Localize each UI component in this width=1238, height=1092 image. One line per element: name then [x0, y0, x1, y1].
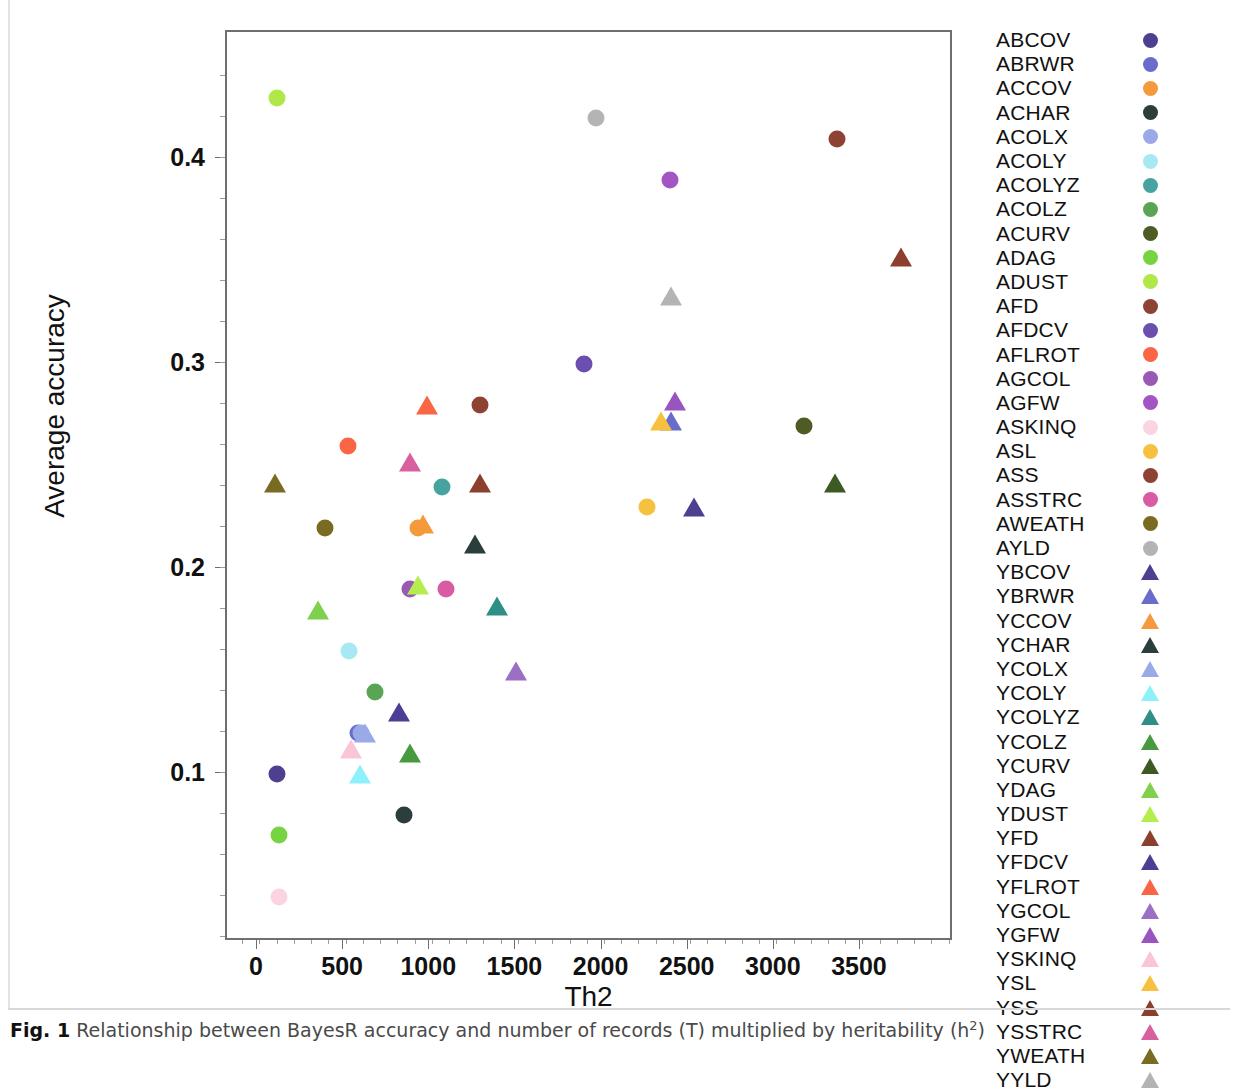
- legend-circle-marker-icon: [1138, 222, 1162, 246]
- legend-marker-shape: [1141, 564, 1159, 580]
- legend-item[interactable]: YBRWR: [996, 584, 1226, 608]
- legend-circle-marker-icon: [1138, 52, 1162, 76]
- legend-marker-shape: [1143, 323, 1158, 338]
- x-axis-minor-tick: [880, 940, 881, 944]
- legend-triangle-marker-icon: [1138, 850, 1162, 874]
- legend-circle-marker-icon: [1138, 173, 1162, 197]
- legend-item[interactable]: ABRWR: [996, 52, 1226, 76]
- legend-item[interactable]: ACCOV: [996, 76, 1226, 100]
- legend-item-label: AFLROT: [996, 343, 1132, 367]
- legend-item[interactable]: AGFW: [996, 391, 1226, 415]
- data-point: [264, 473, 286, 492]
- legend-item[interactable]: AFLROT: [996, 342, 1226, 366]
- y-axis-minor-tick: [220, 198, 225, 199]
- legend-item[interactable]: AYLD: [996, 536, 1226, 560]
- legend-item[interactable]: ACOLX: [996, 125, 1226, 149]
- figure-left-rule: [8, 0, 10, 1008]
- legend-item[interactable]: YBCOV: [996, 560, 1226, 584]
- legend-circle-marker-icon: [1138, 149, 1162, 173]
- y-axis-title: Average accuracy: [39, 146, 71, 666]
- legend-item-label: YDAG: [996, 778, 1132, 802]
- data-point: [890, 248, 912, 267]
- legend-item[interactable]: YCHAR: [996, 633, 1226, 657]
- data-point: [664, 391, 686, 410]
- y-axis-minor-tick: [220, 731, 225, 732]
- legend-item[interactable]: YCOLX: [996, 657, 1226, 681]
- x-axis-minor-tick: [294, 940, 295, 944]
- legend-item[interactable]: YCCOV: [996, 609, 1226, 633]
- legend-item[interactable]: YFD: [996, 826, 1226, 850]
- legend-item[interactable]: YDAG: [996, 778, 1226, 802]
- legend-item[interactable]: ACURV: [996, 222, 1226, 246]
- data-point: [472, 397, 489, 414]
- legend-circle-marker-icon: [1138, 125, 1162, 149]
- legend-item[interactable]: YCOLY: [996, 681, 1226, 705]
- y-axis-minor-tick: [220, 321, 225, 322]
- legend-item[interactable]: ASSTRC: [996, 488, 1226, 512]
- legend-item-label: AYLD: [996, 536, 1132, 560]
- legend-marker-shape: [1143, 468, 1158, 483]
- data-point: [388, 703, 410, 722]
- x-axis-minor-tick: [570, 940, 571, 944]
- y-axis-tick-label: 0.2: [125, 552, 205, 581]
- legend-item[interactable]: ADAG: [996, 246, 1226, 270]
- legend-triangle-marker-icon: [1138, 754, 1162, 778]
- legend-item[interactable]: YWEATH: [996, 1044, 1226, 1068]
- data-point: [354, 723, 376, 742]
- data-point: [486, 596, 508, 615]
- data-point: [683, 498, 705, 517]
- legend-marker-shape: [1143, 81, 1158, 96]
- legend-item[interactable]: ACHAR: [996, 101, 1226, 125]
- legend-item[interactable]: YCURV: [996, 754, 1226, 778]
- data-point: [268, 89, 285, 106]
- legend-item[interactable]: AFD: [996, 294, 1226, 318]
- legend-item[interactable]: ACOLYZ: [996, 173, 1226, 197]
- figure-caption: Fig. 1 Relationship between BayesR accur…: [10, 1018, 1220, 1041]
- legend-item[interactable]: YFLROT: [996, 875, 1226, 899]
- legend-item[interactable]: ASS: [996, 463, 1226, 487]
- data-point: [340, 740, 362, 759]
- legend-item[interactable]: YCOLZ: [996, 729, 1226, 753]
- legend-triangle-marker-icon: [1138, 705, 1162, 729]
- legend-marker-shape: [1141, 951, 1159, 967]
- legend-item[interactable]: YGCOL: [996, 899, 1226, 923]
- data-point: [828, 130, 845, 147]
- legend-marker-shape: [1141, 879, 1159, 895]
- legend-item[interactable]: ASL: [996, 439, 1226, 463]
- legend-item[interactable]: AWEATH: [996, 512, 1226, 536]
- legend-item[interactable]: YCOLYZ: [996, 705, 1226, 729]
- y-axis-minor-tick: [220, 444, 225, 445]
- x-axis-minor-tick: [794, 940, 795, 944]
- data-point: [796, 417, 813, 434]
- legend-item[interactable]: ADUST: [996, 270, 1226, 294]
- x-axis-minor-tick: [673, 940, 674, 944]
- legend-item[interactable]: ACOLZ: [996, 197, 1226, 221]
- legend-marker-shape: [1143, 299, 1158, 314]
- legend-item[interactable]: YGFW: [996, 923, 1226, 947]
- legend-marker-shape: [1143, 154, 1158, 169]
- legend-item[interactable]: ASKINQ: [996, 415, 1226, 439]
- legend-item[interactable]: YDUST: [996, 802, 1226, 826]
- legend-item-label: YBCOV: [996, 560, 1132, 584]
- legend-item[interactable]: ABCOV: [996, 28, 1226, 52]
- legend-marker-shape: [1143, 541, 1158, 556]
- legend-item[interactable]: AGCOL: [996, 367, 1226, 391]
- legend-marker-shape: [1141, 806, 1159, 822]
- legend-circle-marker-icon: [1138, 294, 1162, 318]
- legend-item[interactable]: YFDCV: [996, 850, 1226, 874]
- data-point: [268, 765, 285, 782]
- legend-item[interactable]: AFDCV: [996, 318, 1226, 342]
- data-point: [270, 827, 287, 844]
- legend-item-label: YGFW: [996, 923, 1132, 947]
- legend-item[interactable]: YSKINQ: [996, 947, 1226, 971]
- y-axis-minor-tick: [220, 239, 225, 240]
- legend-item-label: YCOLYZ: [996, 705, 1132, 729]
- x-axis-minor-tick: [346, 940, 347, 944]
- legend-item-label: YFDCV: [996, 850, 1132, 874]
- legend-item[interactable]: ACOLY: [996, 149, 1226, 173]
- legend-item-label: ACURV: [996, 222, 1132, 246]
- legend-item[interactable]: YYLD: [996, 1068, 1226, 1092]
- legend-item[interactable]: YSL: [996, 971, 1226, 995]
- legend-circle-marker-icon: [1138, 488, 1162, 512]
- scatter-plot-area: [225, 30, 952, 940]
